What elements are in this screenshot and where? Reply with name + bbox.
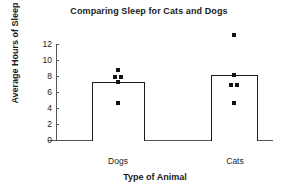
- data-point: [232, 33, 236, 37]
- y-tick-label-0: 0: [32, 136, 52, 145]
- data-point: [229, 83, 233, 87]
- y-tick-label-2: 2: [32, 120, 52, 129]
- x-axis-label: Type of Animal: [30, 172, 280, 182]
- x-tick-label-dogs: Dogs: [83, 156, 153, 166]
- y-tick-mark-12: [56, 44, 59, 45]
- y-tick-label-12: 12: [32, 40, 52, 49]
- plot-area: 12 10 8 6 4 2 0 Dogs Cats: [0, 0, 298, 189]
- y-tick-label-8: 8: [32, 72, 52, 81]
- chart-container: Comparing Sleep for Cats and Dogs Averag…: [0, 0, 298, 189]
- data-point: [116, 68, 120, 72]
- y-tick-mark-2: [56, 124, 59, 125]
- data-point: [116, 101, 120, 105]
- y-tick-label-4: 4: [32, 104, 52, 113]
- y-tick-mark-0: [56, 140, 59, 141]
- y-tick-label-10: 10: [32, 56, 52, 65]
- y-tick-label-6: 6: [32, 88, 52, 97]
- y-tick-mark-6: [56, 92, 59, 93]
- x-tick-label-cats: Cats: [200, 156, 270, 166]
- y-tick-mark-8: [56, 76, 59, 77]
- bar-dogs: [92, 82, 145, 141]
- data-point: [235, 83, 239, 87]
- y-tick-mark-10: [56, 60, 59, 61]
- data-point: [113, 75, 117, 79]
- data-point: [232, 101, 236, 105]
- data-point: [116, 80, 120, 84]
- y-tick-mark-4: [56, 108, 59, 109]
- data-point: [232, 73, 236, 77]
- data-point: [119, 75, 123, 79]
